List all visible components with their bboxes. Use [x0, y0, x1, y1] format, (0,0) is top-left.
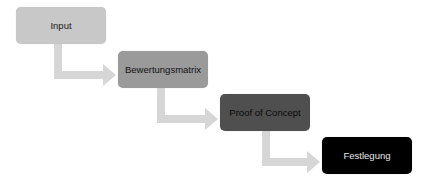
arrow-bewertung-to-poc — [157, 88, 218, 130]
step-proof-of-concept: Proof of Concept — [220, 94, 310, 131]
step-label: Festlegung — [343, 150, 390, 161]
step-bewertungsmatrix: Bewertungsmatrix — [118, 51, 208, 88]
arrow-poc-to-festlegung — [262, 131, 320, 173]
step-festlegung: Festlegung — [322, 137, 412, 174]
step-label: Proof of Concept — [229, 107, 300, 118]
step-label: Input — [50, 20, 71, 31]
step-input: Input — [16, 7, 106, 44]
step-label: Bewertungsmatrix — [125, 64, 201, 75]
arrow-input-to-bewertung — [54, 44, 116, 86]
